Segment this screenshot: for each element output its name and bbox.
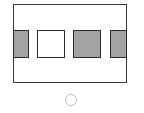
option-radio-circle[interactable] xyxy=(65,94,77,106)
gray-square xyxy=(73,30,101,58)
left-partial-gray-square xyxy=(13,30,29,58)
right-partial-gray-square xyxy=(110,30,127,58)
white-square xyxy=(37,30,65,58)
